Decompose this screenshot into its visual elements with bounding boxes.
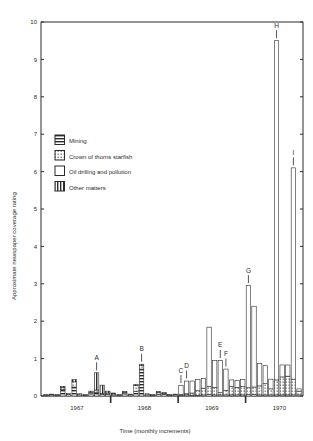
stacked-bar bbox=[162, 393, 166, 396]
x-tick-label-year: 1968 bbox=[138, 405, 152, 411]
bar-segment-starfish bbox=[297, 391, 301, 395]
bar-segment-starfish bbox=[224, 390, 228, 394]
x-axis: 1967196819691970 bbox=[70, 396, 286, 411]
bar-segment-mining bbox=[89, 394, 93, 396]
stacked-bar bbox=[190, 381, 194, 396]
peak-label-H: H bbox=[274, 22, 279, 29]
bar-segment-starfish bbox=[49, 394, 53, 395]
bar-segment-oil bbox=[224, 369, 228, 390]
bar-segment-oil bbox=[252, 306, 256, 387]
stacked-bar bbox=[274, 41, 278, 396]
swatch-other bbox=[55, 182, 65, 192]
bar-segment-starfish bbox=[235, 387, 239, 394]
stacked-bar bbox=[257, 363, 261, 396]
bar-segment-other bbox=[156, 392, 160, 393]
y-axis-title: Approximate newspaper coverage rating bbox=[11, 192, 17, 300]
stacked-bar bbox=[179, 386, 183, 396]
bar-segment-starfish bbox=[44, 395, 48, 396]
bar-segment-starfish bbox=[190, 393, 194, 395]
stacked-bar bbox=[117, 395, 121, 397]
peak-label-I: I bbox=[292, 149, 294, 156]
bar-segment-oil bbox=[297, 389, 301, 391]
bar-segment-starfish bbox=[72, 382, 76, 387]
bar-segment-oil bbox=[207, 327, 211, 386]
bar-segment-starfish bbox=[139, 366, 143, 369]
stacked-bar bbox=[297, 389, 301, 396]
bar-segment-starfish bbox=[128, 394, 132, 395]
bar-segment-starfish bbox=[246, 388, 250, 395]
x-tick-label-year: 1970 bbox=[273, 405, 287, 411]
stacked-bar bbox=[156, 392, 160, 396]
legend-label: Other matters bbox=[69, 185, 106, 191]
bar-segment-starfish bbox=[168, 395, 172, 396]
legend-item[interactable]: Other matters bbox=[55, 182, 106, 192]
bar-segment-oil bbox=[235, 380, 239, 387]
bar-segment-starfish bbox=[117, 395, 121, 396]
legend-item[interactable]: Crown of thorns starfish bbox=[55, 151, 132, 161]
x-tick-label-year: 1969 bbox=[205, 405, 219, 411]
bar-segment-oil bbox=[280, 365, 284, 377]
legend-item[interactable]: Oil drilling and pollution bbox=[55, 166, 131, 176]
legend-label: Mining bbox=[69, 138, 87, 144]
stacked-bar bbox=[78, 394, 82, 396]
bar-segment-starfish bbox=[55, 395, 59, 396]
bar-segment-other bbox=[134, 384, 138, 385]
stacked-bar bbox=[291, 168, 295, 396]
bar-segment-other bbox=[100, 385, 104, 393]
bar-segment-starfish bbox=[269, 389, 273, 395]
stacked-bar bbox=[72, 380, 76, 396]
bar-segment-starfish bbox=[280, 377, 284, 395]
stacked-bar bbox=[280, 365, 284, 396]
stacked-bar bbox=[173, 394, 177, 396]
stacked-bar bbox=[252, 306, 256, 396]
bar-segment-oil bbox=[201, 378, 205, 388]
bar-segment-starfish bbox=[229, 387, 233, 395]
bar-series-group bbox=[44, 41, 301, 396]
bar-segment-mining bbox=[134, 392, 138, 396]
plot-frame bbox=[41, 22, 303, 396]
bar-segment-oil bbox=[286, 365, 290, 376]
stacked-bar bbox=[246, 286, 250, 396]
stacked-bar bbox=[229, 380, 233, 396]
swatch-oil bbox=[55, 166, 65, 176]
bar-segment-starfish bbox=[252, 387, 256, 394]
bar-segment-starfish bbox=[83, 395, 87, 396]
bar-segment-starfish bbox=[263, 384, 267, 395]
bar-segment-oil bbox=[179, 386, 183, 395]
bar-segment-starfish bbox=[145, 394, 149, 395]
y-tick-label: 8 bbox=[34, 94, 38, 100]
stacked-bar bbox=[49, 394, 53, 396]
bar-segment-other bbox=[139, 364, 143, 366]
bar-segment-oil bbox=[241, 380, 245, 387]
stacked-bar bbox=[241, 380, 245, 396]
bar-segment-oil bbox=[212, 360, 216, 387]
bar-segment-other bbox=[162, 393, 166, 394]
stacked-bar bbox=[61, 386, 65, 396]
y-tick-label: 3 bbox=[34, 281, 38, 287]
stacked-bar bbox=[94, 373, 98, 396]
bar-segment-starfish bbox=[212, 387, 216, 394]
y-tick-label: 2 bbox=[34, 318, 38, 324]
bar-segment-starfish bbox=[78, 394, 82, 395]
bar-segment-mining bbox=[139, 369, 143, 396]
bar-segment-oil bbox=[263, 366, 267, 384]
bar-segment-oil bbox=[269, 379, 273, 389]
stacked-bar bbox=[139, 364, 143, 396]
bar-segment-mining bbox=[123, 394, 127, 396]
peak-label-F: F bbox=[224, 350, 228, 357]
bar-segment-starfish bbox=[196, 391, 200, 395]
bar-segment-mining bbox=[94, 392, 98, 396]
stacked-bar bbox=[286, 365, 290, 396]
bar-segment-oil bbox=[218, 360, 222, 392]
bar-segment-starfish bbox=[201, 388, 205, 395]
bar-segment-oil bbox=[196, 380, 200, 391]
stacked-bar bbox=[89, 391, 93, 396]
legend-item[interactable]: Mining bbox=[55, 135, 87, 145]
x-axis-title: Time (monthly increments) bbox=[120, 428, 191, 434]
stacked-bar bbox=[111, 393, 115, 396]
bar-segment-oil bbox=[274, 41, 278, 380]
bar-segment-starfish bbox=[241, 387, 245, 395]
bar-segment-other bbox=[111, 393, 115, 394]
bar-segment-oil bbox=[229, 380, 233, 387]
swatch-starfish bbox=[55, 151, 65, 161]
